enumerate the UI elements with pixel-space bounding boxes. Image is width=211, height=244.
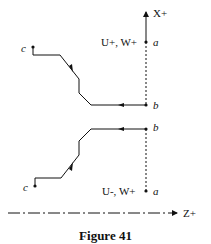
lower-toolpath (35, 129, 146, 186)
upper-arrow-icon (118, 103, 124, 107)
point-a-upper (144, 40, 147, 43)
point-c-lower-label: c (23, 182, 28, 193)
point-b-lower-label: b (153, 122, 159, 133)
lower-direction-label: U-, W+ (102, 186, 136, 197)
x-axis-label: X+ (153, 8, 167, 19)
upper-toolpath (33, 47, 146, 105)
point-b-lower (144, 127, 147, 130)
upper-direction-label: U+, W+ (101, 37, 137, 48)
point-b-upper-label: b (153, 100, 159, 111)
point-c-upper (31, 45, 34, 48)
point-a-lower-label: a (153, 186, 159, 197)
point-c-lower (33, 184, 36, 187)
lower-arrow-icon (118, 127, 124, 131)
point-c-upper-label: c (21, 43, 26, 54)
z-axis-label: Z+ (183, 208, 196, 219)
point-a-lower (144, 189, 147, 192)
figure-caption: Figure 41 (0, 228, 211, 244)
upper-diag-arrow-icon (69, 64, 73, 72)
point-a-upper-label: a (153, 37, 159, 48)
point-b-upper (144, 103, 147, 106)
